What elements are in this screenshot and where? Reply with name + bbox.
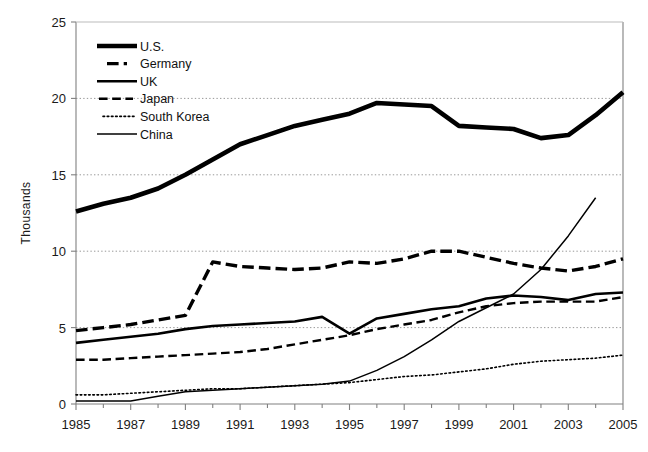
y-tick-label: 10	[52, 244, 66, 259]
x-tick-label: 1985	[62, 417, 91, 432]
chart-canvas: 1985198719891991199319951997199920012003…	[0, 0, 648, 452]
x-tick-label: 1997	[390, 417, 419, 432]
x-tick-label: 1987	[116, 417, 145, 432]
legend-label: Japan	[140, 92, 174, 106]
legend-label: Germany	[140, 57, 192, 71]
x-tick-label: 2001	[499, 417, 528, 432]
y-tick-label: 0	[59, 397, 66, 412]
line-chart: 1985198719891991199319951997199920012003…	[0, 0, 648, 452]
x-tick-label: 1991	[226, 417, 255, 432]
y-tick-label: 15	[52, 168, 66, 183]
x-tick-label: 2005	[609, 417, 638, 432]
x-tick-label: 1989	[171, 417, 200, 432]
y-tick-label: 20	[52, 91, 66, 106]
y-tick-label: 5	[59, 321, 66, 336]
x-tick-label: 1993	[280, 417, 309, 432]
y-axis-title: Thousands	[19, 182, 33, 245]
x-tick-label: 1995	[335, 417, 364, 432]
legend-label: UK	[140, 75, 158, 89]
legend-label: U.S.	[140, 40, 164, 54]
x-tick-label: 1999	[444, 417, 473, 432]
x-tick-label: 2003	[554, 417, 583, 432]
legend-label: South Korea	[140, 110, 210, 124]
y-axis-title-text: Thousands	[19, 182, 33, 245]
legend-label: China	[140, 128, 173, 142]
y-tick-label: 25	[52, 15, 66, 30]
